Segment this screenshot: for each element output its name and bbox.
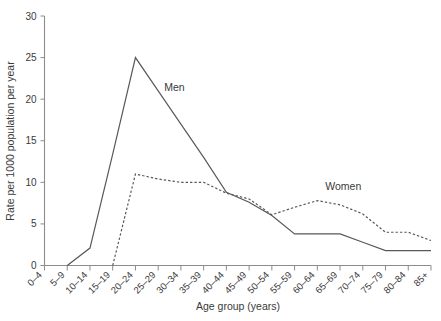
x-axis-tick-labels: 0–45–910–1415–1920–2425–2930–3435–3940–4… bbox=[25, 269, 431, 296]
x-tick-label: 65–69 bbox=[313, 269, 339, 295]
x-tick-label: 45–49 bbox=[222, 269, 248, 295]
x-tick-label: 70–74 bbox=[336, 269, 362, 295]
y-tick-label: 15 bbox=[25, 135, 37, 146]
x-tick-label: 25–29 bbox=[131, 269, 157, 295]
series-annotation-men: Men bbox=[164, 81, 185, 93]
rate-by-age-line-chart: 051015202530 0–45–910–1415–1920–2425–293… bbox=[0, 0, 441, 321]
x-tick-label: 40–44 bbox=[199, 269, 225, 295]
x-tick-label: 60–64 bbox=[290, 269, 316, 295]
x-tick-label: 85+ bbox=[411, 269, 430, 288]
x-tick-label: 15–19 bbox=[86, 269, 112, 295]
x-tick-label: 5–9 bbox=[48, 269, 67, 288]
x-tick-label: 55–59 bbox=[268, 269, 294, 295]
y-tick-label: 10 bbox=[25, 177, 37, 188]
chart-container: 051015202530 0–45–910–1415–1920–2425–293… bbox=[0, 0, 441, 321]
series-annotation-women: Women bbox=[325, 180, 361, 192]
y-axis-title: Rate per 1000 population per year bbox=[4, 61, 16, 221]
x-tick-label: 75–79 bbox=[358, 269, 384, 295]
x-tick-label: 30–34 bbox=[154, 269, 180, 295]
axis-lines bbox=[45, 16, 432, 266]
x-tick-label: 0–4 bbox=[25, 269, 44, 288]
x-axis-title: Age group (years) bbox=[196, 300, 280, 312]
y-tick-label: 5 bbox=[31, 218, 37, 229]
series-line-women bbox=[113, 174, 431, 265]
x-tick-label: 20–24 bbox=[108, 269, 134, 295]
series-line-men bbox=[67, 58, 431, 266]
x-tick-label: 80–84 bbox=[381, 269, 407, 295]
y-tick-label: 30 bbox=[25, 11, 37, 22]
y-tick-label: 25 bbox=[25, 52, 37, 63]
y-tick-label: 20 bbox=[25, 94, 37, 105]
y-axis-tick-labels: 051015202530 bbox=[25, 11, 37, 272]
x-tick-label: 35–39 bbox=[177, 269, 203, 295]
x-tick-label: 50–54 bbox=[245, 269, 271, 295]
y-axis-ticks bbox=[41, 16, 45, 266]
x-tick-label: 10–14 bbox=[63, 269, 89, 295]
